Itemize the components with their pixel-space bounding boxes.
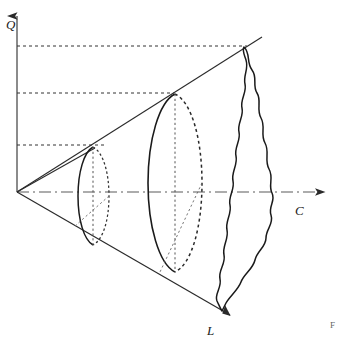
section-small-group (75, 147, 109, 245)
edge-text-fragment: F t (330, 320, 337, 330)
section-medium-group (148, 94, 202, 272)
section-irregular-wavy-outline (216, 47, 273, 311)
section-medium-tie-line (160, 183, 202, 272)
section-small-back-arc (93, 147, 109, 245)
quality-axis-label: Q (6, 17, 16, 32)
lead-time-axis-label: L (206, 323, 214, 338)
section-small-front-arc (78, 147, 93, 245)
figure-root: Q C L F t (0, 0, 339, 338)
guide-lines-group (17, 46, 247, 145)
section-medium-back-arc (175, 94, 202, 272)
cone-upper-generator (17, 37, 262, 192)
section-irregular-wavy-group (216, 47, 273, 311)
cost-axis-label: C (295, 203, 304, 218)
cone-diagram-svg: Q C L (0, 0, 339, 338)
section-small-tie-line (75, 196, 109, 226)
cone-short-generator (17, 148, 95, 192)
cone-generators (17, 37, 262, 192)
section-medium-front-arc (148, 94, 175, 272)
lead-time-axis-line (17, 192, 230, 315)
